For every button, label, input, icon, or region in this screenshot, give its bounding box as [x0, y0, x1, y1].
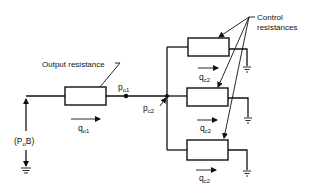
- output-resistor: [65, 87, 106, 105]
- ground-icon: [243, 67, 251, 72]
- source-branch: [21, 96, 65, 173]
- control-resistances-label-line1: Control: [257, 13, 283, 22]
- control-resistances-leaders: [218, 17, 255, 138]
- control-resistances-label-line2: resistances: [257, 23, 297, 32]
- control-resistor-2: [187, 88, 228, 106]
- control-resistor-3: [187, 140, 228, 160]
- qc2-label-2: qc2: [200, 123, 212, 134]
- pc2-label: pc2: [143, 103, 155, 114]
- output-resistance-label: Output resistance: [42, 60, 105, 69]
- ground-icon: [244, 118, 252, 123]
- ground-icon: [243, 171, 251, 176]
- qc2-label-3: qc2: [199, 173, 211, 184]
- control-branch-1: qc2: [167, 38, 251, 83]
- control-branch-3: qc2: [167, 140, 251, 184]
- source-pressure-label: (PoB): [14, 136, 35, 147]
- pc2-leader: [160, 98, 166, 106]
- p01-label: po1: [118, 82, 130, 93]
- qc2-label-1: qc2: [199, 72, 211, 83]
- node-p01: [124, 94, 129, 99]
- ground-icon: [21, 168, 31, 173]
- control-resistor-1: [188, 38, 229, 56]
- q01-label: qo1: [78, 123, 90, 134]
- control-branch-2: qc2: [167, 88, 252, 134]
- resistance-network-diagram: (PoB) Output resistance qo1 po1 pc2 qc2: [0, 0, 315, 193]
